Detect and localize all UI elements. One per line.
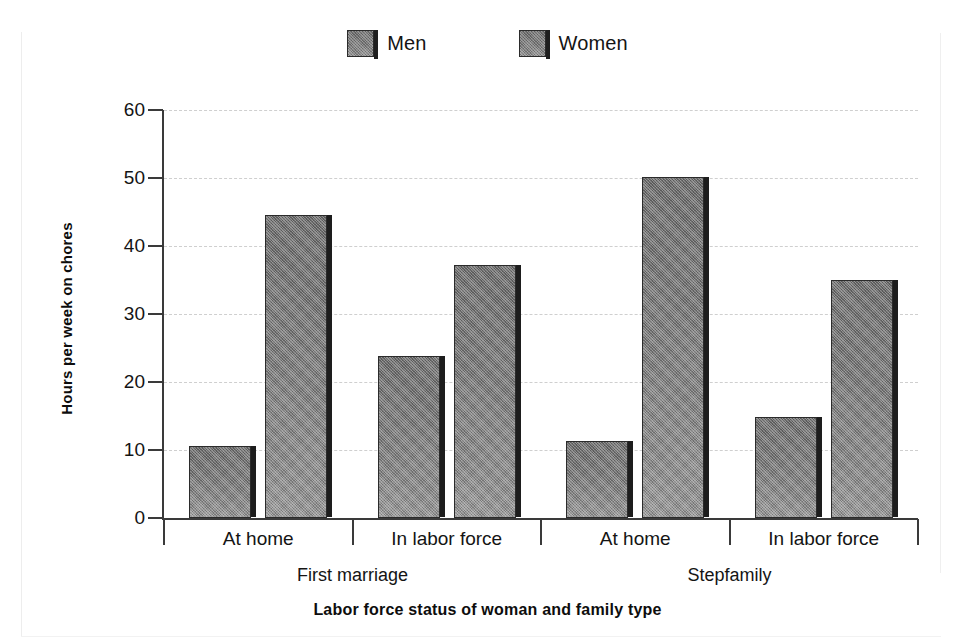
gridline-50 bbox=[164, 178, 918, 179]
y-axis-title: Hours per week on chores bbox=[58, 189, 75, 449]
y-tick-label-20: 20 bbox=[105, 371, 145, 393]
x-axis-tick-2 bbox=[540, 519, 542, 545]
x-category-label-2: At home bbox=[600, 528, 671, 550]
bar-men-2 bbox=[566, 441, 628, 518]
y-tick-label-60: 60 bbox=[105, 99, 145, 121]
y-tick-label-50: 50 bbox=[105, 167, 145, 189]
x-group-label-1: Stepfamily bbox=[687, 565, 771, 586]
y-axis-line bbox=[162, 110, 164, 520]
y-tick-label-40: 40 bbox=[105, 235, 145, 257]
gridline-60 bbox=[164, 110, 918, 111]
y-tick-label-10: 10 bbox=[105, 439, 145, 461]
y-tick-label-30: 30 bbox=[105, 303, 145, 325]
x-axis-tick-0 bbox=[163, 519, 165, 545]
y-tick-mark-60 bbox=[148, 109, 163, 111]
bar-women-1 bbox=[454, 265, 516, 518]
bar-women-0 bbox=[265, 215, 327, 518]
y-tick-mark-10 bbox=[148, 449, 163, 451]
y-tick-mark-50 bbox=[148, 177, 163, 179]
x-axis-tick-3 bbox=[729, 519, 731, 545]
y-tick-mark-20 bbox=[148, 381, 163, 383]
chart-plot-area: Hours per week on chores 6050403020100 A… bbox=[0, 0, 975, 640]
x-axis-tick-4 bbox=[917, 519, 919, 545]
x-group-label-0: First marriage bbox=[297, 565, 408, 586]
bar-women-3 bbox=[831, 280, 893, 518]
x-category-label-0: At home bbox=[223, 528, 294, 550]
y-tick-mark-30 bbox=[148, 313, 163, 315]
y-tick-mark-40 bbox=[148, 245, 163, 247]
bar-women-2 bbox=[642, 177, 704, 518]
bar-men-1 bbox=[378, 356, 440, 518]
y-tick-label-0: 0 bbox=[105, 507, 145, 529]
bar-men-3 bbox=[755, 417, 817, 518]
y-tick-mark-0 bbox=[148, 517, 163, 519]
x-axis-title: Labor force status of woman and family t… bbox=[0, 601, 975, 619]
x-category-label-3: In labor force bbox=[768, 528, 879, 550]
x-category-label-1: In labor force bbox=[391, 528, 502, 550]
x-axis-tick-1 bbox=[352, 519, 354, 545]
bar-men-0 bbox=[189, 446, 251, 518]
